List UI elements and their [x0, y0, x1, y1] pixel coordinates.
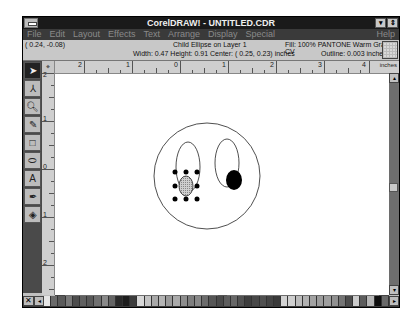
palette-color-swatch[interactable] — [145, 296, 152, 306]
palette-color-swatch[interactable] — [66, 296, 73, 306]
palette-color-swatch[interactable] — [116, 296, 123, 306]
palette-color-swatch[interactable] — [152, 296, 159, 306]
face-circle[interactable] — [154, 123, 260, 229]
palette-color-swatch[interactable] — [58, 296, 65, 306]
restore-button[interactable]: ⇕ — [387, 18, 398, 28]
palette-scroll-left-button[interactable]: ◂ — [34, 296, 44, 306]
palette-color-swatch[interactable] — [73, 296, 80, 306]
menu-layout[interactable]: Layout — [69, 29, 104, 40]
palette-color-swatch[interactable] — [274, 296, 281, 306]
ruler-label: 1 — [126, 61, 130, 68]
right-pupil[interactable] — [226, 170, 242, 190]
palette-color-swatch[interactable] — [94, 296, 101, 306]
ruler-label: 2 — [270, 61, 274, 68]
palette-color-swatch[interactable] — [260, 296, 267, 306]
cursor-coordinates: ( 0.24, -0.08) — [25, 41, 65, 48]
palette-color-swatch[interactable] — [80, 296, 87, 306]
palette-color-swatch[interactable] — [195, 296, 202, 306]
palette-color-swatch[interactable] — [202, 296, 209, 306]
horizontal-ruler[interactable]: 2 1 0 1 2 3 4 inches — [42, 61, 399, 74]
pencil-tool-icon[interactable]: ✎ — [24, 116, 41, 133]
vertical-ruler[interactable]: 2 1 0 1 2 — [42, 73, 55, 295]
minimize-button[interactable]: ▾ — [375, 18, 386, 28]
palette-color-swatch[interactable] — [360, 296, 367, 306]
palette-color-swatch[interactable] — [123, 296, 130, 306]
coreldraw-window: CorelDRAW! - UNTITLED.CDR ▾ ⇕ File Edit … — [22, 16, 400, 308]
palette-color-swatch[interactable] — [217, 296, 224, 306]
status-bar: ( 0.24, -0.08) Child Ellipse on Layer 1 … — [23, 40, 399, 61]
scroll-down-button[interactable]: ▾ — [389, 285, 399, 295]
palette-color-swatch[interactable] — [51, 296, 58, 306]
palette-color-swatch[interactable] — [310, 296, 317, 306]
menu-help[interactable]: Help — [372, 29, 399, 40]
object-info: Child Ellipse on Layer 1 — [173, 41, 247, 48]
palette-color-swatch[interactable] — [159, 296, 166, 306]
palette-color-swatch[interactable] — [238, 296, 245, 306]
fill-swatch — [382, 41, 398, 59]
zoom-tool-icon[interactable]: 🔍︎ — [24, 98, 41, 115]
menu-edit[interactable]: Edit — [46, 29, 70, 40]
palette-color-swatch[interactable] — [224, 296, 231, 306]
menu-effects[interactable]: Effects — [104, 29, 139, 40]
palette-color-swatch[interactable] — [367, 296, 374, 306]
menu-bar: File Edit Layout Effects Text Arrange Di… — [23, 29, 399, 40]
palette-color-swatch[interactable] — [281, 296, 288, 306]
palette-color-swatch[interactable] — [188, 296, 195, 306]
palette-color-swatch[interactable] — [375, 296, 382, 306]
title-bar[interactable]: CorelDRAW! - UNTITLED.CDR ▾ ⇕ — [23, 17, 399, 29]
palette-color-swatch[interactable] — [324, 296, 331, 306]
pick-tool-icon[interactable]: ➤ — [24, 62, 41, 79]
drawing — [55, 74, 389, 295]
vertical-scroll-thumb[interactable] — [389, 183, 398, 192]
palette-color-swatch[interactable] — [130, 296, 137, 306]
palette-color-swatch[interactable] — [109, 296, 116, 306]
menu-display[interactable]: Display — [204, 29, 242, 40]
palette-color-swatch[interactable] — [339, 296, 346, 306]
menu-file[interactable]: File — [23, 29, 46, 40]
palette-color-swatch[interactable] — [382, 296, 389, 306]
ruler-label: 0 — [174, 61, 178, 68]
palette-color-swatch[interactable] — [296, 296, 303, 306]
scroll-up-button[interactable]: ▴ — [389, 73, 399, 83]
text-tool-icon[interactable]: A — [24, 170, 41, 187]
ellipse-tool-icon[interactable]: ⬭ — [24, 152, 41, 169]
no-fill-icon[interactable]: ✕ — [23, 296, 34, 306]
palette-color-swatch[interactable] — [44, 296, 51, 306]
left-pupil-selected[interactable] — [179, 176, 193, 196]
palette-scroll-right-button[interactable]: ▸ — [389, 296, 399, 306]
palette-color-swatch[interactable] — [346, 296, 353, 306]
ruler-label: 1 — [222, 61, 226, 68]
ruler-label: 2 — [78, 61, 82, 68]
menu-text[interactable]: Text — [139, 29, 164, 40]
palette-color-swatch[interactable] — [102, 296, 109, 306]
palette-color-swatch[interactable] — [209, 296, 216, 306]
palette-color-swatch[interactable] — [332, 296, 339, 306]
rectangle-tool-icon[interactable]: □ — [24, 134, 41, 151]
palette-color-swatch[interactable] — [267, 296, 274, 306]
object-dimensions: Width: 0.47 Height: 0.91 Center: ( 0.25,… — [133, 50, 295, 57]
shape-tool-icon[interactable]: ⅄ — [24, 80, 41, 97]
drawing-canvas[interactable] — [55, 74, 389, 295]
window-title: CorelDRAW! - UNTITLED.CDR — [147, 18, 275, 28]
system-menu-button[interactable] — [24, 18, 38, 28]
ruler-units: inches — [380, 62, 397, 68]
menu-special[interactable]: Special — [241, 29, 279, 40]
palette-color-swatch[interactable] — [353, 296, 360, 306]
palette-color-swatch[interactable] — [231, 296, 238, 306]
palette-color-swatch[interactable] — [252, 296, 259, 306]
palette-color-swatch[interactable] — [137, 296, 144, 306]
fill-tool-icon[interactable]: ◈ — [24, 206, 41, 223]
palette-color-swatch[interactable] — [173, 296, 180, 306]
palette-color-swatch[interactable] — [288, 296, 295, 306]
palette-color-swatch[interactable] — [166, 296, 173, 306]
palette-color-swatch[interactable] — [87, 296, 94, 306]
palette-swatches — [44, 296, 389, 307]
menu-arrange[interactable]: Arrange — [164, 29, 204, 40]
ruler-label: 3 — [318, 61, 322, 68]
palette-color-swatch[interactable] — [181, 296, 188, 306]
palette-color-swatch[interactable] — [245, 296, 252, 306]
palette-color-swatch[interactable] — [317, 296, 324, 306]
outline-tool-icon[interactable]: ✒ — [24, 188, 41, 205]
vertical-scrollbar[interactable]: ▴ ▾ — [389, 73, 399, 295]
palette-color-swatch[interactable] — [303, 296, 310, 306]
